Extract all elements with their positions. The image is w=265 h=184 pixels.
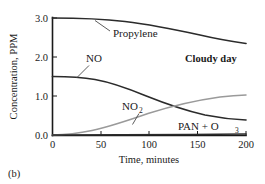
x-tick-label: 100	[141, 139, 157, 150]
series-label-pan-o3-group: PAN + O 3	[178, 120, 239, 135]
y-tick-label: 0.0	[35, 130, 48, 141]
panel-caption: (b)	[8, 168, 21, 180]
x-tick-label: 200	[238, 139, 254, 150]
x-tick-label: 150	[190, 139, 206, 150]
x-tick-label: 0	[50, 139, 55, 150]
concentration-vs-time-chart: 3.0 2.0 1.0 0.0 0 50 100 150 200 Time, m…	[0, 0, 265, 184]
series-label-propylene: Propylene	[113, 27, 158, 39]
series-label-no2: NO	[122, 100, 138, 112]
x-axis-title: Time, minutes	[119, 154, 179, 165]
figure-panel: 3.0 2.0 1.0 0.0 0 50 100 150 200 Time, m…	[0, 0, 265, 184]
series-label-pan-o3-subscript: 3	[235, 126, 239, 135]
y-tick-label: 1.0	[35, 91, 48, 102]
cloudy-day-annotation: Cloudy day	[185, 53, 237, 64]
y-tick-label: 2.0	[35, 52, 48, 63]
series-label-no2-subscript: 2	[139, 106, 143, 115]
series-curve-pan-o3	[53, 134, 247, 135]
leader-line-no	[77, 66, 90, 79]
y-axis-title: Concentration, PPM	[8, 33, 19, 119]
series-label-no: NO	[86, 52, 102, 64]
series-label-pan-o3: PAN + O	[178, 120, 219, 132]
x-tick-label: 50	[96, 139, 107, 150]
y-tick-label: 3.0	[35, 13, 48, 24]
series-label-no2-group: NO 2	[122, 100, 143, 115]
y-axis-tick-labels: 3.0 2.0 1.0 0.0	[35, 13, 48, 141]
x-axis-tick-labels: 0 50 100 150 200	[50, 139, 254, 150]
leader-line-propylene	[95, 21, 110, 32]
